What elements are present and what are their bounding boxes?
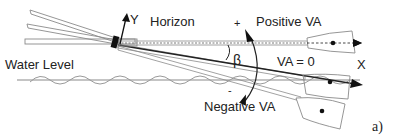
negative-va-label: Negative VA bbox=[204, 99, 276, 114]
blade-positive-va bbox=[307, 31, 362, 53]
water-level bbox=[17, 76, 360, 84]
horizon-label: Horizon bbox=[150, 14, 195, 29]
beta-angle-arc bbox=[226, 45, 230, 60]
panel-label: a) bbox=[372, 119, 383, 135]
beta-label: β bbox=[233, 52, 241, 68]
positive-va-label: Positive VA bbox=[256, 14, 322, 29]
plus-sign: + bbox=[234, 17, 240, 29]
y-axis-label: Y bbox=[130, 12, 139, 27]
oar-vertical-angle-diagram: Y β Horizon + Positive VA VA = 0 X Water… bbox=[0, 0, 405, 139]
va-zero-label: VA = 0 bbox=[277, 54, 315, 69]
x-axis-label: X bbox=[357, 57, 366, 72]
water-level-label: Water Level bbox=[5, 57, 74, 72]
minus-sign: - bbox=[228, 84, 232, 96]
